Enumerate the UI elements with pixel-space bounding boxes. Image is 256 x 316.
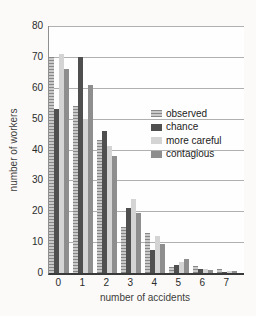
legend-label: observed [166,109,207,119]
legend-row-more-careful: more careful [151,134,222,148]
legend-label: contagious [166,149,214,159]
y-tick-label: 80 [21,21,43,31]
y-tick-label: 20 [21,206,43,216]
x-tick-label: 6 [192,277,212,288]
bar-contagious-x2 [112,156,117,273]
bar-contagious-x5 [184,259,189,273]
bar-contagious-x1 [88,85,93,273]
bar-contagious-x4 [160,244,165,273]
bar-contagious-x7 [232,271,237,273]
y-tick-label: 0 [21,268,43,278]
legend: observedchancemore carefulcontagious [151,107,222,161]
accident-bar-chart-figure: number of workers number of accidents 80… [0,0,256,316]
legend-row-contagious: contagious [151,148,222,162]
x-axis-title: number of accidents [100,292,190,303]
y-axis-title: number of workers [8,109,19,192]
x-tick-label: 5 [168,277,188,288]
y-tick-label: 10 [21,237,43,247]
y-tick-label: 60 [21,83,43,93]
legend-row-observed: observed [151,107,222,121]
y-tick-label: 50 [21,114,43,124]
bar-contagious-x6 [208,270,213,273]
legend-swatch-icon [151,151,162,158]
y-tick-label: 40 [21,145,43,155]
legend-label: chance [166,122,198,132]
bar-contagious-x3 [136,213,141,273]
bar-contagious-x0 [64,69,69,273]
legend-row-chance: chance [151,121,222,135]
y-tick-label: 30 [21,175,43,185]
x-tick-label: 3 [120,277,140,288]
x-tick-label: 4 [144,277,164,288]
legend-swatch-icon [151,110,162,117]
legend-swatch-icon [151,137,162,144]
x-tick-label: 2 [96,277,116,288]
y-tick-label: 70 [21,52,43,62]
legend-label: more careful [166,136,222,146]
x-tick-label: 1 [72,277,92,288]
legend-swatch-icon [151,124,162,131]
x-tick-label: 7 [216,277,236,288]
gridline [49,26,244,27]
x-tick-label: 0 [48,277,68,288]
